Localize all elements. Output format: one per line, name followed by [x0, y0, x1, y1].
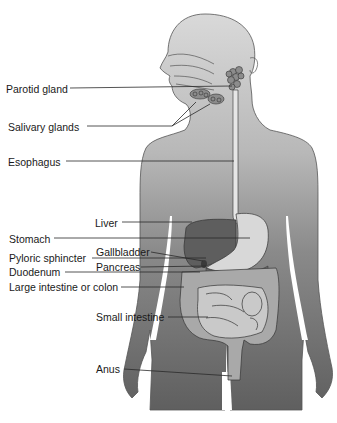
label-duodenum: Duodenum [9, 266, 60, 278]
label-pancreas: Pancreas [96, 261, 140, 273]
anatomy-illustration [0, 0, 337, 423]
label-liver: Liver [95, 217, 118, 229]
digestive-system-diagram: Parotid gland Salivary glands Esophagus … [0, 0, 337, 423]
label-parotid-gland: Parotid gland [6, 83, 68, 95]
label-small-intestine: Small intestine [96, 311, 164, 323]
label-pyloric-sphincter: Pyloric sphincter [9, 252, 86, 264]
small-intestine [198, 285, 268, 338]
label-salivary-glands: Salivary glands [8, 121, 79, 133]
label-anus: Anus [96, 363, 120, 375]
label-esophagus: Esophagus [8, 156, 61, 168]
label-gallbladder: Gallbladder [96, 246, 150, 258]
label-large-intestine: Large intestine or colon [9, 281, 118, 293]
label-stomach: Stomach [9, 233, 50, 245]
